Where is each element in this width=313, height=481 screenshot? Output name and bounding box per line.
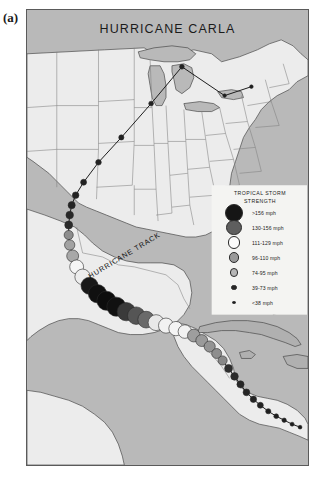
legend-title-line-1: TROPICAL STORM xyxy=(222,190,298,198)
track-point xyxy=(250,85,254,89)
track-point xyxy=(81,179,87,185)
legend-swatch-cell xyxy=(216,252,252,263)
legend-swatch-cell xyxy=(216,236,252,249)
track-point xyxy=(66,211,74,219)
track-point xyxy=(225,364,233,372)
legend-item: 130-156 mph xyxy=(216,220,308,235)
track-point xyxy=(64,230,73,239)
track-point xyxy=(96,160,102,166)
track-point xyxy=(223,94,227,98)
track-point xyxy=(218,356,227,365)
legend-item: 111-129 mph xyxy=(216,235,308,250)
track-point xyxy=(68,202,75,209)
track-point xyxy=(250,396,256,402)
track-point xyxy=(72,192,79,199)
track-point xyxy=(274,414,279,419)
legend-swatch xyxy=(228,236,241,249)
legend: TROPICAL STORM STRENGTH >156 mph130-156 … xyxy=(216,190,308,310)
legend-label: 74-95 mph xyxy=(252,270,278,276)
legend-swatch xyxy=(225,204,243,222)
legend-label: 130-156 mph xyxy=(252,225,284,231)
legend-swatch xyxy=(231,285,237,291)
track-point xyxy=(290,422,294,426)
track-point xyxy=(149,101,154,106)
track-point xyxy=(298,425,302,429)
track-point xyxy=(65,221,73,229)
legend-swatch xyxy=(229,252,240,263)
legend-swatch-cell xyxy=(216,204,252,222)
panel-label: (a) xyxy=(3,10,18,26)
legend-item: 39-73 mph xyxy=(216,280,308,295)
legend-swatch xyxy=(226,220,241,235)
track-point xyxy=(237,381,244,388)
legend-item: 96-110 mph xyxy=(216,250,308,265)
track-point xyxy=(231,373,239,381)
legend-swatch xyxy=(232,301,235,304)
legend-swatch-cell xyxy=(216,301,252,304)
legend-label: 96-110 mph xyxy=(252,255,280,261)
legend-label: <38 mph xyxy=(252,300,273,306)
map-figure: HURRICANE CARLA HURRICANE TRACK TROPICAL… xyxy=(26,9,309,466)
legend-item: <38 mph xyxy=(216,295,308,310)
legend-label: 111-129 mph xyxy=(252,240,283,246)
legend-label: >156 mph xyxy=(252,210,276,216)
track-point xyxy=(257,402,263,408)
track-point xyxy=(119,135,124,140)
map-title: HURRICANE CARLA xyxy=(27,22,308,36)
legend-item: >156 mph xyxy=(216,205,308,220)
track-point xyxy=(266,409,271,414)
track-point xyxy=(65,240,75,250)
legend-swatch-cell xyxy=(216,268,252,276)
legend-swatch-cell xyxy=(216,285,252,291)
legend-label: 39-73 mph xyxy=(252,285,278,291)
track-point xyxy=(282,418,286,422)
track-point xyxy=(180,64,185,69)
legend-item: 74-95 mph xyxy=(216,265,308,280)
legend-rows: >156 mph130-156 mph111-129 mph96-110 mph… xyxy=(216,205,308,310)
track-point xyxy=(243,389,250,396)
legend-swatch-cell xyxy=(216,220,252,235)
legend-swatch xyxy=(230,268,238,276)
